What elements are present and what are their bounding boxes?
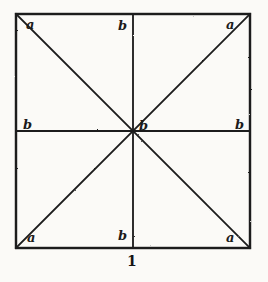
label-bottom-right: a [226,231,234,244]
label-middle-left: b [23,118,32,131]
label-bottom-left: a [27,231,35,244]
label-center: b [139,119,148,132]
label-bottom-center: b [118,229,127,242]
figure-container: a b a b b b a b a 1 [0,0,268,282]
label-top-center: b [118,19,127,32]
label-middle-right: b [235,118,244,131]
label-top-left: a [26,18,34,31]
figure-caption: 1 [127,254,137,268]
label-top-right: a [226,18,234,31]
